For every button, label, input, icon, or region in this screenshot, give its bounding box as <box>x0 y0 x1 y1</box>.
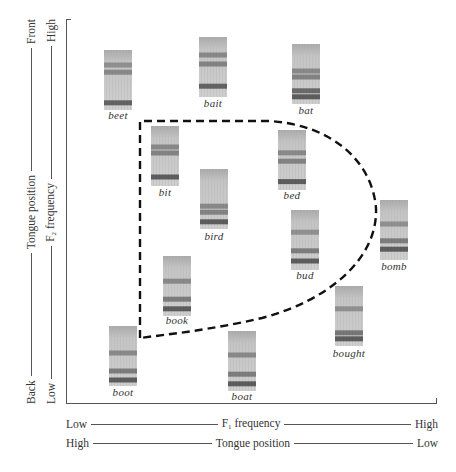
axis-rule <box>93 443 212 444</box>
vowel-label-boat: boat <box>232 390 253 402</box>
spectrogram-bird <box>200 169 228 229</box>
x-tongue-low-label: Low <box>417 437 438 449</box>
spectrogram-boot <box>109 326 137 386</box>
y-tongue-front-label: Front <box>25 19 37 44</box>
y-axis-top-tick <box>66 19 71 20</box>
axis-rule <box>31 48 32 171</box>
x-axis-right-tick <box>436 398 437 404</box>
spectrogram-bought <box>335 286 363 346</box>
vowel-label-bit: bit <box>159 186 172 198</box>
axis-rule <box>31 253 32 376</box>
y-axis-tongue-position: Back Tongue position Front <box>24 19 38 404</box>
axis-rule <box>51 46 52 179</box>
spectrogram-bomb <box>380 200 408 260</box>
vowel-label-bomb: bomb <box>381 260 407 272</box>
y-f2-center-label: F2 frequency <box>44 183 58 242</box>
spectrogram-beet <box>104 50 132 110</box>
axis-rule <box>91 424 218 425</box>
y-axis-line <box>66 19 67 404</box>
y-axis-f2-frequency: Low F2 frequency High <box>44 19 58 404</box>
y-f2-high-label: High <box>45 19 57 42</box>
axis-rule <box>284 424 411 425</box>
spectrogram-bait <box>199 37 227 97</box>
vowel-label-bought: bought <box>333 347 365 359</box>
spectrogram-boat <box>228 331 256 391</box>
spectrogram-bit <box>151 126 179 186</box>
x-f1-center-label: F1 frequency <box>222 417 281 431</box>
x-axis-line <box>66 403 437 404</box>
x-f1-high-label: High <box>415 418 438 430</box>
vowel-label-beet: beet <box>108 109 128 121</box>
vowel-label-bat: bat <box>299 104 314 116</box>
vowel-label-bird: bird <box>204 230 223 242</box>
x-axis-tongue-position: High Tongue position Low <box>66 436 438 450</box>
x-tongue-high-label: High <box>66 437 89 449</box>
x-axis-f1-frequency: Low F1 frequency High <box>66 417 438 431</box>
x-tongue-center-label: Tongue position <box>216 437 290 449</box>
axis-rule <box>51 246 52 379</box>
spectrogram-bat <box>292 44 320 104</box>
spectrogram-bed <box>278 130 306 190</box>
vowel-label-bait: bait <box>204 97 222 109</box>
vowel-label-boot: boot <box>113 386 134 398</box>
y-tongue-center-label: Tongue position <box>25 175 37 249</box>
vowel-label-bud: bud <box>296 269 313 281</box>
vowel-label-bed: bed <box>284 189 301 201</box>
y-tongue-back-label: Back <box>25 380 37 404</box>
axis-rule <box>294 443 413 444</box>
spectrogram-bud <box>291 210 319 270</box>
vowel-label-book: book <box>166 314 189 326</box>
spectrogram-book <box>163 256 191 316</box>
x-f1-low-label: Low <box>66 418 87 430</box>
y-f2-low-label: Low <box>45 383 57 404</box>
